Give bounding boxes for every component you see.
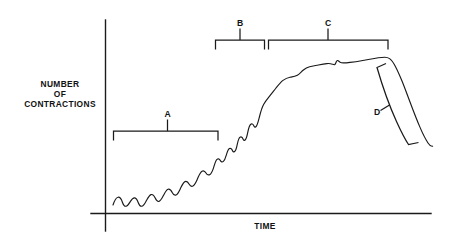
bracket-d-stem [381,105,390,111]
axis-group [91,20,431,231]
bracket-b-shape [216,40,265,50]
y-axis-title-line-1: NUMBER [41,79,80,89]
bracket-b-group: B [216,18,265,50]
bracket-c-shape [269,40,389,50]
y-axis-title-line-3: CONTRACTIONS [24,99,96,109]
contractions-trace [113,57,433,206]
x-axis-title: TIME [254,221,276,231]
bracket-c-label: C [325,18,331,28]
contractions-chart-figure: A B C D TIME NUMBER OF CONTRACTIONS [0,0,450,248]
bracket-a-shape [114,131,219,141]
bracket-d-group: D [374,64,419,145]
bracket-a-label: A [164,109,170,119]
bracket-c-group: C [269,18,389,50]
bracket-d-shape [377,64,419,145]
bracket-d-label: D [374,107,380,117]
axis-titles-group: TIME NUMBER OF CONTRACTIONS [24,79,276,231]
y-axis-title-line-2: OF [54,89,66,99]
bracket-b-label: B [237,18,243,28]
bracket-a-group: A [114,109,219,141]
contractions-trace-group [113,57,433,206]
